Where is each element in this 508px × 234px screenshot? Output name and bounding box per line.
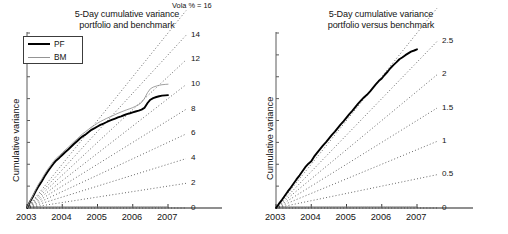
chart-panel-left: 5-Day cumulative variance portfolio and … bbox=[0, 0, 254, 234]
y-axis-label-right: Cumulative variance bbox=[265, 97, 275, 180]
figure-two-panel-cumulative-variance: 5-Day cumulative variance portfolio and … bbox=[0, 0, 508, 234]
vola-annotation-label: 0 bbox=[191, 203, 196, 212]
legend-left: PF BM bbox=[23, 36, 83, 64]
vola-annotation-label: 0.5 bbox=[442, 169, 453, 178]
plot-area-right bbox=[254, 0, 508, 234]
vola-annotation-label: 2.5 bbox=[442, 36, 453, 45]
line-swatch-icon bbox=[28, 57, 50, 58]
vola-annotation-label: 1.5 bbox=[442, 103, 453, 112]
legend-item-pf-label: PF bbox=[54, 38, 65, 50]
vola-annotation-label: 14 bbox=[191, 30, 200, 39]
line-swatch-icon bbox=[28, 43, 50, 45]
x-axis-tick-label: 2004 bbox=[300, 212, 320, 222]
vola-annotation-label: 6 bbox=[191, 128, 196, 137]
x-axis-tick-label: 2007 bbox=[157, 212, 177, 222]
vola-annotation-label: 4 bbox=[191, 153, 196, 162]
vola-annotation-label: 0 bbox=[442, 203, 447, 212]
x-axis-tick-label: 2003 bbox=[16, 212, 36, 222]
x-axis-tick-label: 2004 bbox=[51, 212, 71, 222]
vola-annotation-label: 10 bbox=[191, 79, 200, 88]
x-axis-tick-label: 2003 bbox=[265, 212, 285, 222]
x-axis-tick-label: 2005 bbox=[87, 212, 107, 222]
x-axis-tick-label: 2006 bbox=[122, 212, 142, 222]
x-axis-tick-label: 2007 bbox=[406, 212, 426, 222]
legend-item-pf: PF bbox=[24, 37, 84, 51]
vola-annotation-label: 1 bbox=[442, 136, 447, 145]
vola-annotation-label: 12 bbox=[191, 54, 200, 63]
x-axis-tick-label: 2005 bbox=[336, 212, 356, 222]
vola-annotation-head-left: Vola % = 16 bbox=[172, 1, 212, 10]
vola-annotation-label: 2 bbox=[191, 178, 196, 187]
vola-annotation-label: 2 bbox=[442, 69, 447, 78]
legend-item-bm: BM bbox=[24, 50, 84, 64]
vola-annotation-label: 8 bbox=[191, 104, 196, 113]
legend-item-bm-label: BM bbox=[54, 51, 66, 63]
chart-panel-right: 5-Day cumulative variance portfolio vers… bbox=[254, 0, 508, 234]
x-axis-tick-label: 2006 bbox=[371, 212, 391, 222]
